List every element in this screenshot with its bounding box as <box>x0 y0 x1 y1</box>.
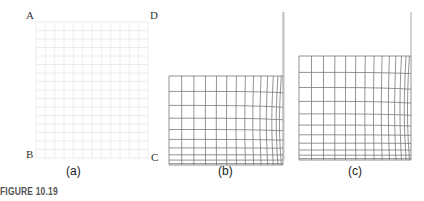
caption-c: (c) <box>348 164 362 178</box>
caption-b: (b) <box>218 164 233 178</box>
panel-b-mesh <box>169 12 283 165</box>
caption-a: (a) <box>66 164 81 178</box>
figure-label: FIGURE 10.19 <box>0 186 58 197</box>
panel-a-grid <box>36 22 148 158</box>
corner-label-c: C <box>151 151 158 163</box>
panel-c-mesh <box>284 12 411 160</box>
corner-label-b: B <box>26 148 33 160</box>
corner-label-a: A <box>26 9 34 21</box>
corner-label-d: D <box>150 9 158 21</box>
